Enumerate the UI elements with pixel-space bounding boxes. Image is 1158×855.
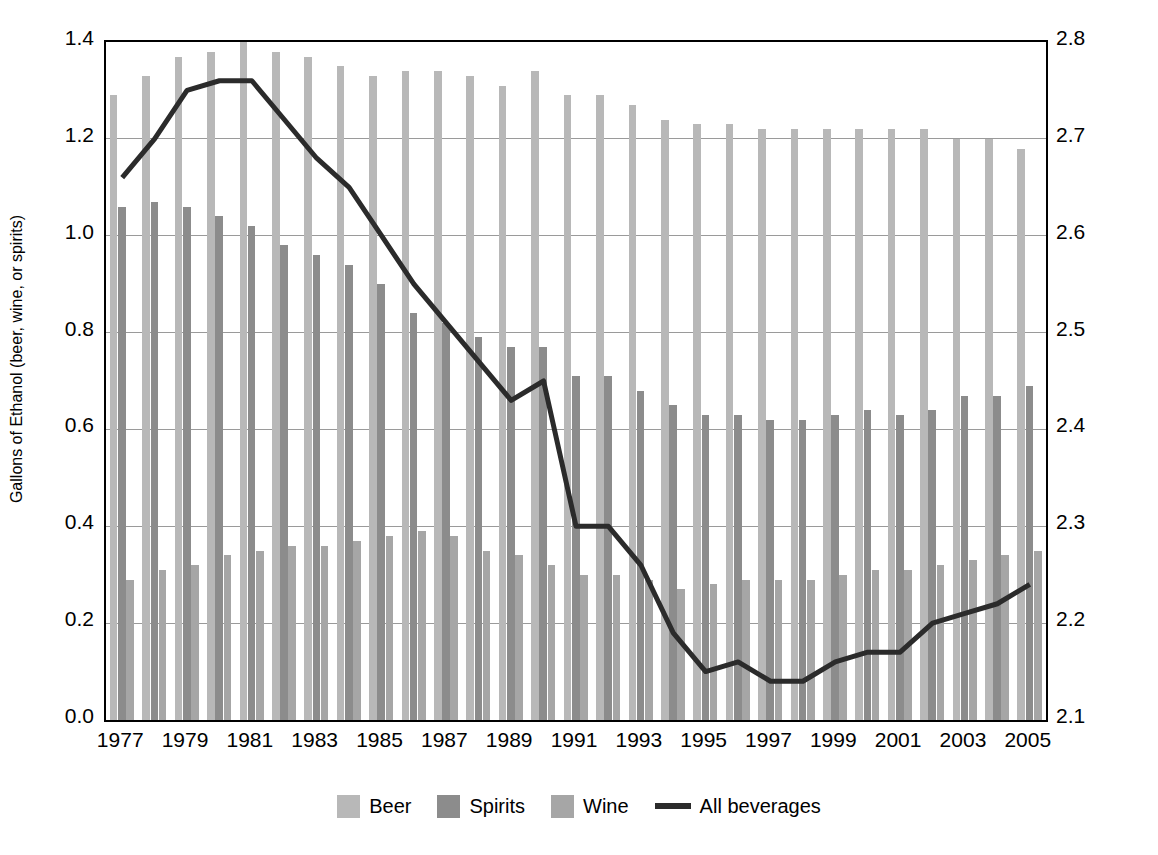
x-axis-tick-1979: 1979 xyxy=(151,728,219,752)
legend-swatch-icon xyxy=(437,795,460,818)
bar-wine-2005 xyxy=(1034,551,1042,721)
y-axis-left-tick-0.0: 0.0 xyxy=(65,704,94,728)
bar-beer-1977 xyxy=(110,95,118,720)
bar-beer-1986 xyxy=(402,71,410,720)
legend-swatch-icon xyxy=(337,795,360,818)
bar-beer-1984 xyxy=(337,66,345,720)
bar-wine-1983 xyxy=(321,546,329,720)
bar-spirits-1988 xyxy=(475,337,483,720)
bar-wine-1981 xyxy=(256,551,264,721)
bar-wine-1987 xyxy=(450,536,458,720)
bar-wine-2000 xyxy=(872,570,880,720)
x-axis-tick-1999: 1999 xyxy=(799,728,867,752)
x-axis-tick-2003: 2003 xyxy=(929,728,997,752)
legend-line-marker-icon xyxy=(655,803,691,809)
y-axis-left-title-text: Gallons of Ethanol (beer, wine, or spiri… xyxy=(8,215,26,503)
y-axis-left-tick-1.2: 1.2 xyxy=(65,123,94,147)
legend-item-wine[interactable]: Wine xyxy=(551,795,629,818)
y-axis-right-tick-2.8: 2.8 xyxy=(1056,26,1085,50)
bar-beer-2000 xyxy=(855,129,863,720)
bar-beer-2005 xyxy=(1017,149,1025,720)
bar-spirits-1989 xyxy=(507,347,515,720)
legend-label: Beer xyxy=(369,795,411,818)
bar-spirits-1996 xyxy=(734,415,742,720)
x-axis-tick-1989: 1989 xyxy=(475,728,543,752)
x-axis-tick-1987: 1987 xyxy=(410,728,478,752)
bar-beer-1981 xyxy=(240,42,248,720)
bar-spirits-2000 xyxy=(864,410,872,720)
y-axis-right-tick-2.3: 2.3 xyxy=(1056,510,1085,534)
bar-wine-2003 xyxy=(969,560,977,720)
y-axis-left-title: Gallons of Ethanol (beer, wine, or spiri… xyxy=(0,0,34,718)
bar-wine-1991 xyxy=(580,575,588,720)
bar-spirits-1977 xyxy=(118,207,126,720)
y-axis-right-tick-2.4: 2.4 xyxy=(1056,413,1085,437)
bar-beer-1992 xyxy=(596,95,604,720)
bar-beer-1978 xyxy=(142,76,150,720)
legend-label: Spirits xyxy=(469,795,525,818)
bar-wine-1995 xyxy=(710,584,718,720)
bar-beer-1987 xyxy=(434,71,442,720)
y-axis-left-tick-0.4: 0.4 xyxy=(65,510,94,534)
bar-beer-1982 xyxy=(272,52,280,720)
legend-item-beer[interactable]: Beer xyxy=(337,795,411,818)
bar-wine-1985 xyxy=(386,536,394,720)
bar-spirits-1981 xyxy=(248,226,256,720)
bar-wine-1999 xyxy=(839,575,847,720)
y-axis-left-tick-0.6: 0.6 xyxy=(65,413,94,437)
bar-wine-1989 xyxy=(515,555,523,720)
y-axis-right-tick-2.2: 2.2 xyxy=(1056,607,1085,631)
bar-spirits-1980 xyxy=(215,216,223,720)
bar-beer-1998 xyxy=(791,129,799,720)
bar-beer-2002 xyxy=(920,129,928,720)
x-axis-tick-1985: 1985 xyxy=(346,728,414,752)
bar-beer-2001 xyxy=(888,129,896,720)
y-axis-right-tick-2.5: 2.5 xyxy=(1056,317,1085,341)
x-axis-tick-2005: 2005 xyxy=(994,728,1062,752)
bar-wine-1997 xyxy=(775,580,783,720)
chart-legend: BeerSpiritsWineAll beverages xyxy=(0,786,1158,826)
x-axis-tick-1983: 1983 xyxy=(281,728,349,752)
bar-spirits-1982 xyxy=(280,245,288,720)
x-axis-tick-1977: 1977 xyxy=(86,728,154,752)
bar-beer-1989 xyxy=(499,86,507,720)
bar-wine-1984 xyxy=(353,541,361,720)
bar-spirits-1995 xyxy=(702,415,710,720)
bar-wine-1996 xyxy=(742,580,750,720)
bar-spirits-1978 xyxy=(151,202,159,720)
bar-wine-1979 xyxy=(191,565,199,720)
y-axis-left-tick-1.0: 1.0 xyxy=(65,220,94,244)
bar-spirits-1992 xyxy=(604,376,612,720)
legend-item-all-beverages[interactable]: All beverages xyxy=(655,795,821,818)
legend-label: All beverages xyxy=(700,795,821,818)
bar-spirits-2001 xyxy=(896,415,904,720)
bar-wine-1994 xyxy=(677,589,685,720)
bar-wine-1998 xyxy=(807,580,815,720)
bar-spirits-1997 xyxy=(766,420,774,720)
bar-spirits-1998 xyxy=(799,420,807,720)
bar-beer-1994 xyxy=(661,120,669,721)
bar-beer-1999 xyxy=(823,129,831,720)
bar-spirits-1983 xyxy=(313,255,321,720)
plot-inner xyxy=(106,42,1046,720)
bar-spirits-1994 xyxy=(669,405,677,720)
chart-figure: Gallons of Ethanol (beer, wine, or spiri… xyxy=(0,0,1158,855)
bar-wine-1980 xyxy=(224,555,232,720)
bar-spirits-1987 xyxy=(442,323,450,720)
bar-wine-1988 xyxy=(483,551,491,721)
legend-swatch-icon xyxy=(551,795,574,818)
bar-beer-1979 xyxy=(175,57,183,720)
bar-beer-1991 xyxy=(564,95,572,720)
bar-wine-2002 xyxy=(937,565,945,720)
x-axis-tick-2001: 2001 xyxy=(864,728,932,752)
bar-spirits-1985 xyxy=(377,284,385,720)
bar-beer-2003 xyxy=(953,139,961,720)
x-axis-tick-1991: 1991 xyxy=(540,728,608,752)
bar-spirits-2005 xyxy=(1026,386,1034,720)
bar-beer-1990 xyxy=(531,71,539,720)
x-axis-tick-1997: 1997 xyxy=(734,728,802,752)
bar-wine-1990 xyxy=(548,565,556,720)
bar-beer-1997 xyxy=(758,129,766,720)
bar-wine-1986 xyxy=(418,531,426,720)
legend-item-spirits[interactable]: Spirits xyxy=(437,795,525,818)
